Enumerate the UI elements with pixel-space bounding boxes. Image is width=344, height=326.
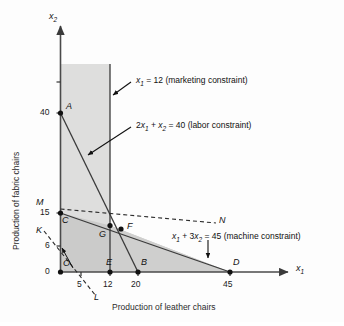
y-tick-label-6: 6 xyxy=(45,241,50,250)
vertex-label-O: O xyxy=(63,259,70,268)
labor-constraint-label: 2x1 + x2 = 40 (labor constraint) xyxy=(136,121,251,132)
marketing-constraint-label: x1 = 12 (marketing constraint) xyxy=(136,76,248,87)
x-tick-label-45: 45 xyxy=(223,280,232,289)
point-D xyxy=(227,269,232,274)
point-O xyxy=(58,269,63,274)
point-G xyxy=(107,223,112,228)
vertex-label-N: N xyxy=(219,216,226,225)
x-tick-label-20: 20 xyxy=(131,280,140,289)
vertex-label-A: A xyxy=(66,102,72,111)
vertex-label-D: D xyxy=(233,258,240,267)
vertex-label-K: K xyxy=(36,226,42,235)
point-B xyxy=(135,269,140,274)
vertex-label-B: B xyxy=(141,258,147,267)
point-E xyxy=(107,269,112,274)
machine-constraint-label: x1 + 3x2 = 45 (machine constraint) xyxy=(172,232,301,243)
y-tick-label-15: 15 xyxy=(40,208,49,217)
graph-canvas xyxy=(0,0,344,326)
y-axis-title: Production of fabric chairs xyxy=(12,152,21,250)
vertex-label-F: F xyxy=(127,222,133,231)
x-axis-name: x1 xyxy=(296,264,304,275)
marketing-leader-arrow xyxy=(113,82,131,95)
y-tick-label-40: 40 xyxy=(40,108,49,117)
x-axis-title: Production of leather chairs xyxy=(112,303,215,312)
y-axis-name: x2 xyxy=(49,12,57,23)
vertex-label-L: L xyxy=(94,293,99,302)
vertex-label-E: E xyxy=(106,258,112,267)
vertex-label-G: G xyxy=(99,230,106,239)
x-tick-label-5: 5 xyxy=(77,280,82,289)
vertex-label-C: C xyxy=(62,216,69,225)
point-A xyxy=(58,110,63,115)
y-tick-label-0: 0 xyxy=(45,267,50,276)
x-tick-label-12: 12 xyxy=(103,280,112,289)
linear-programming-graph: x2 x1 Production of fabric chairs Produc… xyxy=(0,0,344,326)
bottom-divider xyxy=(0,322,344,326)
vertex-label-M: M xyxy=(36,198,44,207)
point-F xyxy=(118,226,123,231)
